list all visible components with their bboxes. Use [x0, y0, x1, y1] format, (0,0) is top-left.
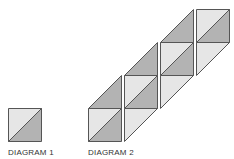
diagram-2-column-2: [125, 43, 158, 142]
diagram-2-column-1: [89, 76, 122, 142]
diagram-2: [89, 10, 230, 142]
diagram-2-column-4: [197, 10, 230, 76]
diagram-2-label: DIAGRAM 2: [88, 148, 134, 157]
column-2-bottom-light-triangle: [125, 109, 158, 142]
column-4-bottom-light-triangle: [197, 43, 230, 76]
column-2-top-dark-triangle: [125, 43, 158, 76]
column-1-top-dark-triangle: [89, 76, 122, 109]
diagram-canvas: [0, 0, 234, 159]
column-3-bottom-light-triangle: [161, 76, 194, 109]
diagram-2-column-3: [161, 10, 194, 109]
diagram-1-label: DIAGRAM 1: [8, 148, 54, 157]
column-3-top-dark-triangle: [161, 10, 194, 43]
diagram-1: [9, 109, 42, 142]
